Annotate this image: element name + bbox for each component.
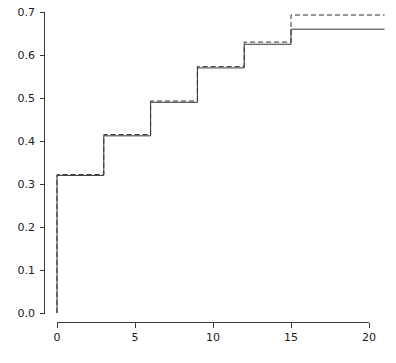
y-axis-tick-label: 0.3	[18, 178, 36, 191]
y-axis-tick-label: 0.5	[18, 92, 36, 105]
step-function-chart: 0.00.10.20.30.40.50.60.7 05101520	[0, 0, 396, 363]
x-axis-tick-label: 20	[362, 331, 376, 344]
y-axis-tick-label: 0.2	[18, 221, 36, 234]
y-axis: 0.00.10.20.30.40.50.60.7	[18, 6, 45, 320]
y-axis-tick-label: 0.6	[18, 49, 36, 62]
x-axis-tick-label: 10	[206, 331, 220, 344]
plot-area: 0.00.10.20.30.40.50.60.7 05101520	[0, 0, 396, 363]
series-dashed-step-curve	[57, 15, 385, 313]
data-series-group	[57, 15, 385, 313]
x-axis-tick-label: 15	[284, 331, 298, 344]
y-axis-tick-label: 0.4	[18, 135, 36, 148]
x-axis-tick-label: 0	[54, 331, 61, 344]
x-axis-tick-label: 5	[132, 331, 139, 344]
series-solid-step-curve	[57, 29, 385, 313]
y-axis-tick-label: 0.1	[18, 264, 36, 277]
x-axis: 05101520	[54, 323, 377, 344]
y-axis-tick-label: 0.7	[18, 6, 36, 19]
y-axis-tick-label: 0.0	[18, 307, 36, 320]
